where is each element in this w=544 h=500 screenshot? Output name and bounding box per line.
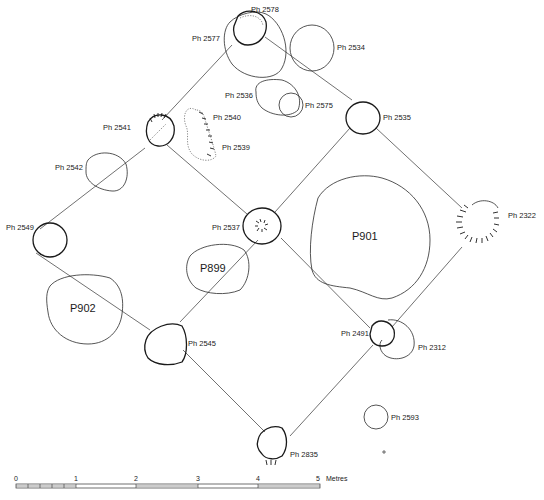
- label-ph2536: Ph 2536: [225, 91, 253, 100]
- posthole-2577: [224, 12, 286, 77]
- posthole-2312: [380, 320, 414, 359]
- label-ph2542: Ph 2542: [55, 163, 83, 172]
- posthole-2549: [33, 223, 67, 257]
- label-ph2540: Ph 2540: [213, 113, 241, 122]
- label-ph2549: Ph 2549: [6, 223, 34, 232]
- scale-tick-2: 2: [134, 475, 138, 482]
- posthole-2534: [290, 25, 334, 71]
- posthole-2545: [145, 324, 187, 365]
- posthole-2535: [346, 102, 380, 134]
- posthole-2491: [370, 321, 394, 346]
- posthole-2578: [234, 11, 267, 45]
- label-ph2578: Ph 2578: [251, 5, 279, 14]
- label-ph2575: Ph 2575: [305, 101, 333, 110]
- scale-tick-1: 1: [74, 475, 78, 482]
- label-ph2312: Ph 2312: [418, 343, 446, 352]
- site-plan: Ph 2578 Ph 2577 Ph 2534 Ph 2536 Ph 2575 …: [0, 0, 544, 500]
- label-p901: P901: [352, 230, 378, 242]
- label-ph2322: Ph 2322: [508, 211, 536, 220]
- scale-bar: 0 1 2 3 4 5 Metres: [14, 475, 348, 488]
- posthole-2540-2539: [184, 108, 216, 160]
- label-ph2535: Ph 2535: [383, 113, 411, 122]
- posthole-2835: [257, 427, 286, 465]
- scale-tick-4: 4: [256, 475, 260, 482]
- posthole-2541: [146, 113, 174, 146]
- label-ph2491: Ph 2491: [341, 329, 369, 338]
- scale-tick-0: 0: [14, 475, 18, 482]
- label-ph2545: Ph 2545: [188, 339, 216, 348]
- posthole-2593: [364, 405, 388, 429]
- survey-marker-icon: [382, 450, 386, 454]
- label-ph2593: Ph 2593: [391, 413, 419, 422]
- scale-tick-3: 3: [196, 475, 200, 482]
- label-ph2539: Ph 2539: [222, 143, 250, 152]
- posthole-2537: [243, 208, 281, 244]
- posthole-2536: [256, 80, 300, 116]
- label-ph2835: Ph 2835: [290, 450, 318, 459]
- label-ph2577: Ph 2577: [192, 34, 220, 43]
- scale-tick-5: 5: [316, 475, 320, 482]
- posthole-2542: [86, 153, 127, 191]
- label-ph2534: Ph 2534: [337, 43, 365, 52]
- label-ph2541: Ph 2541: [103, 123, 131, 132]
- label-p899: P899: [200, 262, 226, 274]
- label-p902: P902: [70, 302, 96, 314]
- scale-unit: Metres: [326, 475, 348, 482]
- label-ph2537: Ph 2537: [212, 223, 240, 232]
- posthole-2322: [456, 201, 499, 243]
